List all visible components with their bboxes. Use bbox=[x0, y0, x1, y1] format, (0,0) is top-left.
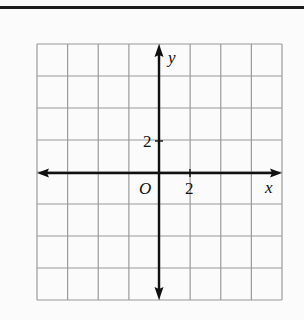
x-axis-label: x bbox=[264, 178, 273, 197]
coordinate-plane: y x O 2 2 bbox=[0, 0, 304, 320]
y-axis-label: y bbox=[166, 48, 176, 67]
x-tick-label: 2 bbox=[185, 179, 194, 198]
origin-label: O bbox=[139, 179, 151, 198]
y-tick-label: 2 bbox=[143, 132, 152, 151]
